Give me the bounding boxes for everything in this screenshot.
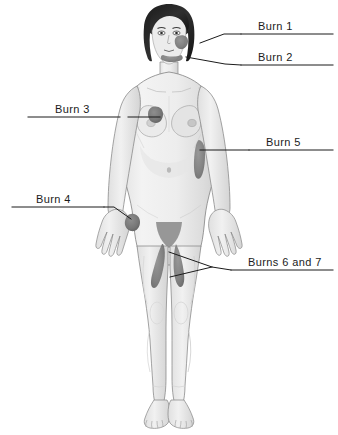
burn-diagram: Burn 1Burn 2Burn 3Burn 4Burn 5Burns 6 an… [0, 0, 338, 435]
areola-right [188, 119, 196, 126]
leader-line-burn-2 [186, 57, 241, 65]
label-burn-1: Burn 1 [258, 20, 293, 32]
label-burn-5: Burn 5 [266, 136, 301, 148]
hand-right [209, 209, 243, 256]
leader-line-burn-1 [200, 34, 241, 43]
navel [167, 167, 171, 173]
pupil-left [160, 32, 163, 35]
leg-left [137, 246, 168, 408]
burn-mark-3 [148, 106, 163, 123]
hand-left [96, 209, 130, 256]
label-burns-6-and-7: Burns 6 and 7 [248, 256, 322, 268]
body-group [96, 4, 242, 428]
label-burn-4: Burn 4 [36, 193, 71, 205]
label-burn-2: Burn 2 [258, 51, 293, 63]
body-figure-illustration [0, 0, 338, 435]
pupil-right [175, 32, 178, 35]
label-burn-3: Burn 3 [55, 103, 90, 115]
